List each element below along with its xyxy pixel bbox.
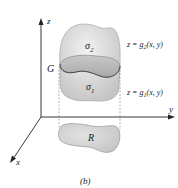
x-axis-label: x <box>15 157 20 167</box>
upper-surface-equation: z = g2(x, y) <box>126 40 163 50</box>
figure-caption: (b) <box>80 176 91 186</box>
z-axis-arrow-icon <box>39 18 44 25</box>
region-R-label: R <box>87 132 94 143</box>
x-axis <box>13 117 41 159</box>
lower-surface-equation: z = g1(x, y) <box>126 88 163 98</box>
y-axis-arrow-icon <box>168 115 175 120</box>
solid-G-label: G <box>47 63 54 74</box>
y-axis-label: y <box>168 104 173 114</box>
solid-region-diagram: z y x σ2 σ1 G R z = g2(x, y) z = g1(x, y… <box>0 0 178 188</box>
z-axis-label: z <box>46 16 51 26</box>
